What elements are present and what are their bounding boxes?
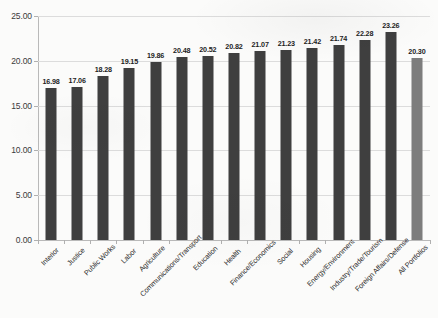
bar-value-label: 20.30 — [408, 47, 425, 56]
bar-value-label: 18.28 — [95, 65, 112, 74]
bar-value-label: 20.82 — [225, 42, 242, 51]
x-axis-category-label: Energy/Environment — [305, 237, 356, 288]
y-axis-label: 15.00 — [11, 101, 32, 111]
x-axis-category-label: Education — [191, 244, 219, 272]
bar[interactable] — [411, 58, 422, 240]
x-axis-tick — [195, 240, 196, 244]
x-axis-tick — [38, 240, 39, 244]
bar[interactable] — [228, 53, 239, 240]
bar[interactable] — [98, 76, 109, 240]
x-axis-tick — [143, 240, 144, 244]
bar-group[interactable]: 21.42 — [299, 16, 325, 240]
bar-chart: 0.005.0010.0015.0020.0025.0016.9817.0618… — [0, 0, 438, 318]
bar-value-label: 19.15 — [121, 57, 138, 66]
x-axis-category-label: Interior — [39, 246, 61, 268]
y-axis-label: 5.00 — [16, 190, 32, 200]
bar-group[interactable]: 20.52 — [195, 16, 221, 240]
x-axis-tick — [378, 240, 379, 244]
bar[interactable] — [72, 87, 83, 240]
bar[interactable] — [359, 40, 370, 240]
bar-group[interactable]: 21.23 — [273, 16, 299, 240]
x-axis-category-label: Justice — [65, 246, 87, 268]
x-axis-tick — [325, 240, 326, 244]
bar-value-label: 21.42 — [304, 37, 321, 46]
x-axis-tick — [169, 240, 170, 244]
x-axis-category-label: Health — [222, 246, 243, 267]
bar-group[interactable]: 21.07 — [247, 16, 273, 240]
bar-group[interactable]: 20.30 — [404, 16, 430, 240]
bar[interactable] — [202, 56, 213, 240]
bar-value-label: 21.74 — [330, 34, 347, 43]
bar-group[interactable]: 23.26 — [378, 16, 404, 240]
bar-value-label: 17.06 — [69, 76, 86, 85]
bar[interactable] — [307, 48, 318, 240]
x-axis-category-label: Labor — [119, 247, 138, 266]
bar[interactable] — [150, 62, 161, 240]
plot-area: 0.005.0010.0015.0020.0025.0016.9817.0618… — [38, 16, 430, 240]
bar-group[interactable]: 20.48 — [169, 16, 195, 240]
bar[interactable] — [46, 88, 57, 240]
y-axis-label: 0.00 — [16, 235, 32, 245]
bar-group[interactable]: 19.15 — [116, 16, 142, 240]
x-axis-tick — [299, 240, 300, 244]
bar[interactable] — [255, 51, 266, 240]
bar-value-label: 19.86 — [147, 51, 164, 60]
y-axis-label: 25.00 — [11, 11, 32, 21]
bar-group[interactable]: 20.82 — [221, 16, 247, 240]
bar-value-label: 16.98 — [42, 77, 59, 86]
bar-value-label: 21.23 — [278, 39, 295, 48]
bar[interactable] — [333, 45, 344, 240]
bar-value-label: 20.48 — [173, 46, 190, 55]
x-axis-category-label: Housing — [298, 245, 323, 270]
bar-value-label: 20.52 — [199, 45, 216, 54]
x-axis-category-label: Finance/Economics — [228, 238, 278, 288]
y-axis-label: 20.00 — [11, 56, 32, 66]
x-axis-tick — [352, 240, 353, 244]
bar-group[interactable]: 21.74 — [325, 16, 351, 240]
x-axis-tick — [90, 240, 91, 244]
bar-group[interactable]: 19.86 — [143, 16, 169, 240]
bar-value-label: 21.07 — [252, 40, 269, 49]
x-axis-category-label: Social — [275, 247, 295, 267]
x-axis-category-label: Public Works — [82, 242, 117, 277]
bar-group[interactable]: 22.28 — [352, 16, 378, 240]
bar-group[interactable]: 17.06 — [64, 16, 90, 240]
x-axis-tick — [221, 240, 222, 244]
x-axis-tick — [404, 240, 405, 244]
bar[interactable] — [124, 68, 135, 240]
bar-group[interactable]: 18.28 — [90, 16, 116, 240]
bar-value-label: 23.26 — [382, 21, 399, 30]
x-axis-tick — [64, 240, 65, 244]
x-axis-tick — [116, 240, 117, 244]
x-axis-tick — [430, 240, 431, 244]
y-axis-label: 10.00 — [11, 145, 32, 155]
bar-group[interactable]: 16.98 — [38, 16, 64, 240]
bar[interactable] — [281, 50, 292, 240]
bar[interactable] — [176, 57, 187, 241]
bar-value-label: 22.28 — [356, 29, 373, 38]
bar[interactable] — [385, 32, 396, 240]
x-axis-tick — [273, 240, 274, 244]
x-axis-tick — [247, 240, 248, 244]
